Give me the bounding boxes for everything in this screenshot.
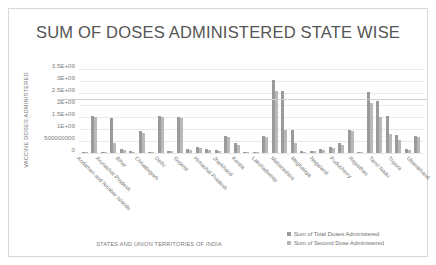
bar[interactable]	[94, 117, 97, 153]
bar[interactable]	[227, 137, 230, 153]
x-tick-label: Delhi	[153, 155, 166, 168]
x-tick-label: Tripura	[387, 155, 403, 171]
chart-title: SUM OF DOSES ADMINISTERED STATE WISE	[9, 23, 427, 42]
bar[interactable]	[332, 148, 335, 153]
x-tick-label: Uttarakhand	[406, 155, 431, 180]
bar[interactable]	[379, 117, 382, 153]
bar[interactable]	[398, 140, 401, 153]
legend-item[interactable]: Sum of Second Dose Administered	[287, 240, 384, 246]
bar[interactable]	[180, 118, 183, 153]
legend-swatch	[287, 232, 291, 236]
bar[interactable]	[237, 145, 240, 153]
y-tick-label: 1.5E+09	[52, 110, 75, 117]
x-axis-title: STATES AND UNION TERRITORIES OF INDIA	[9, 241, 309, 247]
bar-group[interactable]	[242, 63, 252, 153]
bar-group[interactable]	[166, 63, 176, 153]
bar[interactable]	[113, 143, 116, 153]
plot-area: 3.5E+093E+092.5E+092E+091.5E+091E+095000…	[31, 63, 423, 153]
bar-group[interactable]	[365, 63, 375, 153]
bar-group[interactable]	[213, 63, 223, 153]
bar[interactable]	[417, 137, 420, 153]
bar[interactable]	[341, 145, 344, 153]
y-axis-ticks: 3.5E+093E+092.5E+092E+091.5E+091E+095000…	[31, 59, 77, 153]
bar[interactable]	[389, 134, 392, 153]
bar[interactable]	[246, 152, 249, 153]
y-tick-label: 0	[72, 146, 75, 153]
bar[interactable]	[151, 152, 154, 153]
bar[interactable]	[218, 151, 221, 153]
bar-group[interactable]	[318, 63, 328, 153]
bar[interactable]	[351, 131, 354, 153]
bar-group[interactable]	[375, 63, 385, 153]
bar-group[interactable]	[194, 63, 204, 153]
bar-group[interactable]	[299, 63, 309, 153]
bar-group[interactable]	[289, 63, 299, 153]
bar-group[interactable]	[223, 63, 233, 153]
x-tick-label: Himachal Pradesh	[192, 155, 228, 191]
bar[interactable]	[132, 152, 135, 153]
bar-group[interactable]	[356, 63, 366, 153]
bar-group[interactable]	[128, 63, 138, 153]
bar-group[interactable]	[280, 63, 290, 153]
x-tick-label: Kerala	[231, 155, 246, 170]
bar[interactable]	[142, 133, 145, 153]
bar[interactable]	[303, 152, 306, 153]
y-tick-label: 2.5E+09	[52, 86, 75, 93]
chart-legend: Sum of Total Doses AdministeredSum of Se…	[287, 231, 384, 249]
bar[interactable]	[313, 151, 316, 153]
bar[interactable]	[265, 137, 268, 153]
bar-group[interactable]	[99, 63, 109, 153]
bar[interactable]	[104, 152, 107, 153]
bar[interactable]	[161, 117, 164, 153]
bar[interactable]	[294, 143, 297, 153]
x-axis-line	[57, 99, 427, 100]
plot-canvas	[79, 63, 423, 153]
bar[interactable]	[284, 130, 287, 153]
bar[interactable]	[370, 103, 373, 153]
x-tick-label: Arunachal Pradesh	[95, 155, 132, 192]
bar-group[interactable]	[403, 63, 413, 153]
bar-group[interactable]	[185, 63, 195, 153]
bar[interactable]	[322, 150, 325, 153]
bar-group[interactable]	[156, 63, 166, 153]
bar[interactable]	[208, 150, 211, 153]
bar-group[interactable]	[270, 63, 280, 153]
bar-group[interactable]	[175, 63, 185, 153]
bar-group[interactable]	[232, 63, 242, 153]
bar-group[interactable]	[327, 63, 337, 153]
legend-label: Sum of Total Doses Administered	[294, 231, 379, 237]
bar-group[interactable]	[147, 63, 157, 153]
bar-group[interactable]	[308, 63, 318, 153]
bar[interactable]	[189, 150, 192, 153]
bar[interactable]	[123, 150, 126, 153]
y-axis-title: VACCINE DOSES ADMINISTERED	[23, 55, 29, 185]
bar[interactable]	[256, 152, 259, 153]
bar-groups	[79, 63, 423, 153]
bar-group[interactable]	[346, 63, 356, 153]
bar-group[interactable]	[90, 63, 100, 153]
bar-group[interactable]	[337, 63, 347, 153]
bar-group[interactable]	[118, 63, 128, 153]
x-tick-label: Gujarat	[173, 155, 190, 172]
bar-group[interactable]	[413, 63, 423, 153]
bar-group[interactable]	[261, 63, 271, 153]
y-tick-label: 3E+09	[57, 74, 75, 81]
bar-group[interactable]	[251, 63, 261, 153]
legend-label: Sum of Second Dose Administered	[294, 240, 384, 246]
bar[interactable]	[408, 150, 411, 153]
y-tick-label: 3.5E+09	[52, 62, 75, 69]
bar[interactable]	[199, 148, 202, 153]
bar[interactable]	[85, 152, 88, 153]
x-tick-label: Bihar	[115, 155, 128, 168]
y-tick-label: 1E+09	[57, 122, 75, 129]
legend-item[interactable]: Sum of Total Doses Administered	[287, 231, 384, 237]
bar-group[interactable]	[80, 63, 90, 153]
bar-group[interactable]	[137, 63, 147, 153]
bar[interactable]	[360, 152, 363, 153]
bar-group[interactable]	[384, 63, 394, 153]
x-axis-tick-labels: Andaman and Nicobar IslandsArunachal Pra…	[79, 155, 429, 217]
bar-group[interactable]	[394, 63, 404, 153]
bar-group[interactable]	[204, 63, 214, 153]
bar-group[interactable]	[109, 63, 119, 153]
bar[interactable]	[170, 151, 173, 153]
